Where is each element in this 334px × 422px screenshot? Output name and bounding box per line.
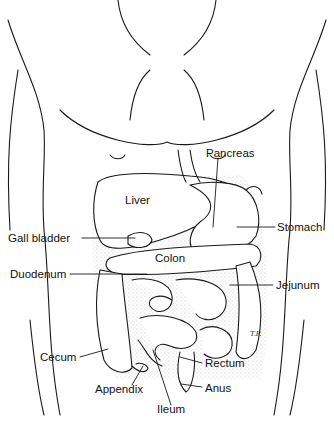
gall-bladder xyxy=(128,233,152,248)
label-pancreas: Pancreas xyxy=(206,147,255,159)
label-colon: Colon xyxy=(155,252,185,264)
artist-signature: T.P. xyxy=(250,330,261,338)
label-stomach: Stomach xyxy=(277,221,322,233)
label-ileum: Ileum xyxy=(157,403,185,415)
label-jejunum: Jejunum xyxy=(276,279,319,291)
label-gall-bladder: Gall bladder xyxy=(8,232,70,244)
label-cecum: Cecum xyxy=(40,351,76,363)
label-anus: Anus xyxy=(205,382,231,394)
label-duodenum: Duodenum xyxy=(10,268,66,280)
label-appendix: Appendix xyxy=(95,383,143,395)
label-liver: Liver xyxy=(125,194,150,206)
label-rectum: Rectum xyxy=(205,357,245,369)
